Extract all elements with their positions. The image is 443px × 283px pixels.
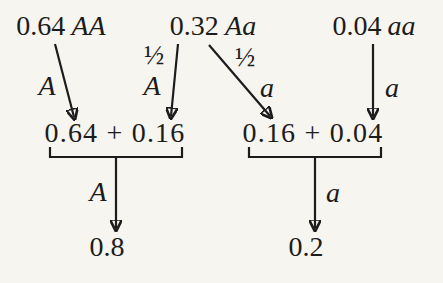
frequency-value-AA: 0.64 (16, 10, 65, 41)
gamete-label-from-Aa-A: A (143, 72, 160, 100)
genotype-label-Aa: Aa (225, 10, 256, 41)
frequency-value-aa: 0.04 (332, 10, 381, 41)
fraction-label-Aa-A: ½ (144, 42, 164, 69)
genotype-frequency-Aa: 0.32Aa (170, 12, 256, 40)
arrow-AA-to-sumA (55, 44, 74, 117)
genotype-frequency-AA: 0.64AA (16, 12, 105, 40)
gamete-label-from-aa: a (385, 74, 399, 102)
frequency-value-Aa: 0.32 (170, 10, 219, 41)
allele-A-sum-expression: 0.64 + 0.16 (45, 119, 186, 147)
gamete-label-from-Aa-a: a (260, 74, 274, 102)
genotype-frequency-aa: 0.04aa (332, 12, 415, 40)
allele-a-sum-expression: 0.16 + 0.04 (243, 119, 384, 147)
allele-A-total: 0.8 (90, 233, 125, 261)
allele-label-a: a (326, 179, 340, 207)
allele-label-A: A (89, 178, 106, 206)
allele-a-total: 0.2 (289, 233, 324, 261)
arrow-Aa-to-sumA (171, 44, 178, 116)
bracket-sum-A (50, 147, 182, 157)
fraction-label-Aa-a: ½ (235, 44, 255, 71)
gamete-label-from-AA: A (38, 72, 55, 100)
bracket-sum-a (249, 147, 381, 157)
allele-frequency-diagram: 0.64AA 0.32Aa 0.04aa ½ ½ A A a a 0.64 + … (0, 0, 443, 283)
genotype-label-aa: aa (388, 10, 416, 41)
genotype-label-AA: AA (71, 10, 105, 41)
